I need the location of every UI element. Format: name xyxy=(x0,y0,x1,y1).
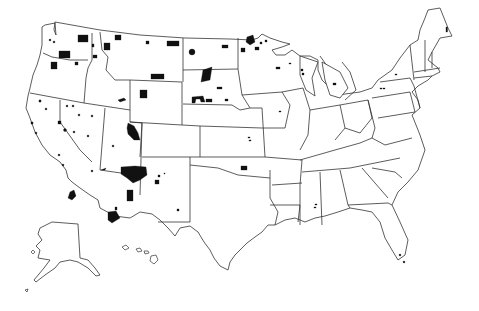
reservation-marker xyxy=(64,129,67,132)
reservation-marker xyxy=(260,42,262,44)
reservation-marker xyxy=(75,62,78,65)
reservation-marker xyxy=(104,43,110,50)
reservation-marker xyxy=(222,45,228,48)
reservation-marker xyxy=(51,62,57,69)
reservation-marker xyxy=(249,140,251,141)
reservation-marker xyxy=(115,35,121,40)
reservation-marker xyxy=(241,48,245,52)
reservation-marker xyxy=(217,87,222,89)
reservation-marker xyxy=(59,51,70,58)
reservation-marker xyxy=(155,180,159,184)
reservation-marker xyxy=(93,55,97,58)
reservation-marker xyxy=(151,74,164,79)
reservation-marker xyxy=(35,132,37,134)
reservation-marker xyxy=(73,131,75,133)
reservation-marker xyxy=(395,74,397,75)
reservation-marker xyxy=(276,67,280,69)
reservation-marker xyxy=(66,105,68,107)
reservation-marker xyxy=(248,137,250,138)
reservation-marker xyxy=(167,41,179,46)
reservation-marker xyxy=(164,173,165,174)
reservation-marker xyxy=(127,190,133,201)
reservation-marker xyxy=(140,90,147,98)
reservation-marker xyxy=(403,261,405,263)
reservation-marker xyxy=(72,105,74,107)
reservation-marker xyxy=(115,207,117,210)
reservation-marker xyxy=(146,41,149,44)
reservation-marker xyxy=(91,170,93,172)
reservation-marker xyxy=(399,254,401,256)
reservation-marker xyxy=(446,27,448,32)
reservation-marker xyxy=(58,154,60,156)
reservation-marker xyxy=(380,88,382,89)
reservation-marker xyxy=(177,209,179,211)
reservation-marker xyxy=(87,135,89,137)
reservation-marker xyxy=(225,99,228,101)
reservation-marker xyxy=(39,100,41,102)
reservation-marker xyxy=(92,44,94,47)
alaska-inset xyxy=(25,222,100,292)
reservation-marker xyxy=(314,207,316,208)
reservation-marker xyxy=(53,41,55,43)
reservation-marker xyxy=(58,121,61,124)
hawaii-inset xyxy=(122,245,158,264)
reservation-marker xyxy=(206,99,212,102)
reservation-marker xyxy=(91,115,93,117)
reservation-marker xyxy=(279,111,281,112)
reservation-marker xyxy=(333,83,336,85)
reservation-marker xyxy=(301,69,303,71)
reservation-marker xyxy=(241,166,247,170)
reservation-marker xyxy=(289,63,291,64)
reservation-marker xyxy=(49,39,51,41)
reservation-marker xyxy=(315,204,317,205)
map-svg xyxy=(0,0,479,311)
reservation-marker xyxy=(158,175,160,177)
reservation-marker xyxy=(62,164,64,166)
reservation-marker xyxy=(383,88,385,89)
reservation-marker xyxy=(255,47,259,50)
us-outline xyxy=(26,8,452,270)
reservation-marker xyxy=(189,49,195,55)
us-reservations-map xyxy=(0,0,479,311)
reservation-marker xyxy=(68,190,76,200)
reservation-marker xyxy=(45,108,47,110)
reservation-marker xyxy=(302,73,304,75)
reservation-marker xyxy=(31,122,33,124)
reservation-marker xyxy=(265,40,267,42)
reservation-marker xyxy=(78,114,80,116)
reservation-marker xyxy=(112,145,114,147)
reservation-marker xyxy=(78,35,88,42)
